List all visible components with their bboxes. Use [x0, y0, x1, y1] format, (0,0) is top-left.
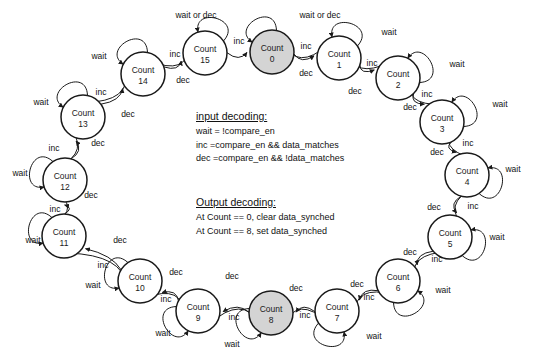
edge-label-dec: dec: [113, 235, 127, 245]
edge-label-inc: inc: [367, 58, 379, 68]
state-node[interactable]: Count15: [183, 31, 227, 75]
self-loop-label: wait: [11, 168, 28, 178]
edge-label-dec: dec: [91, 138, 105, 148]
state-machine-diagram: Count0Count1Count2Count3Count4Count5Coun…: [0, 0, 537, 353]
edge-label-inc: inc: [96, 87, 108, 97]
edge-label-inc: inc: [364, 292, 376, 302]
edge-label-dec: dec: [403, 247, 417, 257]
edge-label-dec: dec: [403, 102, 417, 112]
output-decoding-line: At Count == 0, clear data_synched: [196, 211, 335, 225]
state-node[interactable]: Count14: [121, 52, 165, 96]
self-loop-label: wait: [380, 27, 397, 37]
edge-label-inc: inc: [50, 204, 62, 214]
edge-label-dec: dec: [348, 86, 362, 96]
edge-label-inc: inc: [301, 41, 313, 51]
edge-label-dec: dec: [176, 75, 190, 85]
state-node[interactable]: Count8: [249, 291, 293, 335]
state-number: 5: [448, 239, 453, 249]
input-decoding-line: dec =compare_en && !data_matches: [196, 152, 344, 166]
state-name: Count: [194, 44, 217, 54]
state-number: 10: [135, 283, 145, 293]
self-loop-label: wait or dec: [174, 10, 217, 20]
state-name: Count: [129, 272, 152, 282]
edge-label-dec: dec: [225, 271, 239, 281]
state-number: 11: [60, 238, 69, 248]
output-decoding-block: Output decoding: At Count == 0, clear da…: [196, 196, 335, 238]
input-decoding-line: wait = !compare_en: [196, 125, 344, 139]
state-name: Count: [456, 166, 479, 176]
state-node[interactable]: Count13: [61, 95, 105, 139]
edge-label-dec: dec: [169, 267, 183, 277]
self-loop-label: wait: [365, 331, 382, 341]
edge-label-dec: dec: [121, 109, 135, 119]
state-node[interactable]: Count6: [376, 259, 420, 303]
state-node[interactable]: Count4: [445, 153, 489, 197]
self-loop-label: wait: [154, 328, 171, 338]
state-name: Count: [387, 69, 410, 79]
edge-label-inc: inc: [468, 201, 480, 211]
state-node[interactable]: Count11: [42, 214, 86, 258]
state-name: Count: [132, 65, 155, 75]
state-number: 12: [60, 182, 70, 192]
state-node[interactable]: Count12: [43, 158, 87, 202]
edge-label-dec: dec: [289, 283, 303, 293]
state-number: 7: [335, 313, 340, 323]
edge-label-dec: dec: [430, 147, 444, 157]
input-decoding-title: input decoding:: [196, 110, 344, 122]
input-decoding-block: input decoding: wait = !compare_en inc =…: [196, 110, 344, 166]
state-number: 1: [337, 60, 342, 70]
edge-label-dec: dec: [299, 68, 313, 78]
state-number: 13: [78, 119, 88, 129]
self-loop-label: wait: [84, 280, 101, 290]
self-loop-label: wait: [504, 164, 521, 174]
state-name: Count: [260, 304, 283, 314]
state-name: Count: [431, 113, 454, 123]
state-node[interactable]: Count9: [176, 289, 220, 333]
self-loop-label: wait: [223, 339, 240, 349]
state-name: Count: [53, 227, 76, 237]
edge-label-inc: inc: [170, 49, 182, 59]
edge-label-inc: inc: [422, 89, 434, 99]
inc-edge: [71, 141, 79, 159]
edge-label-dec: dec: [350, 279, 364, 289]
state-name: Count: [439, 228, 462, 238]
edge-label-inc: inc: [161, 294, 173, 304]
self-loop-label: wait: [24, 235, 41, 245]
state-number: 9: [196, 313, 201, 323]
state-name: Count: [261, 43, 284, 53]
self-loop-label: wait: [488, 232, 505, 242]
edge-label-dec: dec: [84, 190, 98, 200]
self-loop-label: wait: [491, 99, 508, 109]
self-loop-label: wait: [448, 59, 465, 69]
state-node[interactable]: Count2: [376, 56, 420, 100]
state-number: 6: [396, 283, 401, 293]
self-loop-label: wait: [90, 51, 107, 61]
state-node[interactable]: Count5: [428, 215, 472, 259]
states-group: Count0Count1Count2Count3Count4Count5Coun…: [42, 30, 489, 335]
self-loop-label: wait or dec: [298, 10, 341, 20]
edge-label-dec: dec: [427, 202, 441, 212]
state-name: Count: [54, 171, 77, 181]
state-node[interactable]: Count7: [315, 289, 359, 333]
state-name: Count: [387, 272, 410, 282]
state-node[interactable]: Count3: [420, 100, 464, 144]
state-name: Count: [187, 302, 210, 312]
fsm-canvas: Count0Count1Count2Count3Count4Count5Coun…: [0, 0, 537, 353]
state-node[interactable]: Count1: [317, 36, 361, 80]
state-node[interactable]: Count0: [250, 30, 294, 74]
state-number: 3: [440, 124, 445, 134]
edge-label-inc: inc: [300, 310, 312, 320]
input-decoding-line: inc =compare_en && data_matches: [196, 139, 344, 153]
state-number: 8: [269, 315, 274, 325]
state-node[interactable]: Count10: [118, 259, 162, 303]
self-loop-label: wait: [434, 285, 451, 295]
output-decoding-title: Output decoding:: [196, 196, 335, 208]
edge-label-inc: inc: [432, 254, 444, 264]
state-name: Count: [326, 302, 349, 312]
state-number: 15: [200, 55, 210, 65]
inc-edge: [294, 54, 314, 60]
self-loop-label: wait: [32, 97, 49, 107]
inc-edge: [227, 52, 247, 57]
edge-label-inc: inc: [463, 138, 475, 148]
state-name: Count: [72, 108, 95, 118]
